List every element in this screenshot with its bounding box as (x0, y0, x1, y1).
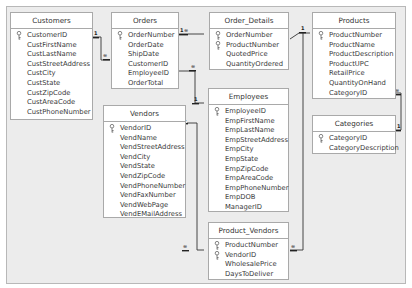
field-name: CustAreaCode (27, 98, 75, 106)
field-row[interactable]: OrderNumber (112, 31, 178, 41)
field-row[interactable]: ShipDate (112, 50, 178, 60)
field-row[interactable]: VendEMailAddress (104, 210, 185, 220)
table-order-details[interactable]: Order_Details OrderNumberProductNumberQu… (209, 12, 289, 70)
field-row[interactable]: ProductDescription (313, 50, 395, 60)
table-title[interactable]: Product_Vendors (209, 223, 288, 239)
table-categories[interactable]: Categories CategoryIDCategoryDescription (312, 115, 396, 154)
field-row[interactable]: CustLastName (11, 50, 92, 60)
field-row[interactable]: RetailPrice (313, 69, 395, 79)
field-row[interactable]: VendFaxNumber (104, 191, 185, 201)
field-name: ProductDescription (329, 50, 394, 58)
field-row[interactable]: ProductNumber (209, 241, 288, 251)
field-name: CustomerID (27, 31, 67, 39)
field-row[interactable]: CustState (11, 79, 92, 89)
card-many: ∞ (183, 243, 187, 249)
field-row[interactable]: CustAreaCode (11, 98, 92, 108)
rel-products-orderdetails[interactable] (290, 33, 310, 39)
field-row[interactable]: CustStreetAddress (11, 60, 92, 70)
table-title[interactable]: Products (313, 13, 395, 29)
field-row[interactable]: EmployeeID (209, 107, 288, 117)
field-row[interactable]: DaysToDeliver (209, 270, 288, 280)
primary-key-icon (214, 251, 220, 260)
field-row[interactable]: OrderNumber (210, 31, 288, 41)
field-name: CustZipCode (27, 89, 71, 97)
field-row[interactable]: ManagerID (209, 203, 288, 213)
field-row[interactable]: VendorID (209, 251, 288, 261)
field-row[interactable]: EmpLastName (209, 126, 288, 136)
field-row[interactable]: EmpZipCode (209, 165, 288, 175)
table-title[interactable]: Orders (112, 13, 178, 29)
field-name: CustLastName (27, 50, 76, 58)
field-row[interactable]: OrderDate (112, 41, 178, 51)
field-row[interactable]: CategoryID (313, 89, 395, 99)
field-row[interactable]: EmpFirstName (209, 117, 288, 127)
field-row[interactable]: EmployeeID (112, 69, 178, 79)
field-row[interactable]: QuantityOrdered (210, 60, 288, 70)
table-products[interactable]: Products ProductNumberProductNameProduct… (312, 12, 396, 99)
table-title[interactable]: Customers (11, 13, 92, 29)
table-title[interactable]: Order_Details (210, 13, 288, 29)
field-row[interactable]: EmpCity (209, 145, 288, 155)
field-row[interactable]: VendPhoneNumber (104, 182, 185, 192)
table-orders[interactable]: Orders OrderNumberOrderDateShipDateCusto… (111, 12, 179, 89)
field-row[interactable]: ProductNumber (313, 31, 395, 41)
rel-products-productvendors[interactable] (290, 33, 303, 250)
field-list: CustomerIDCustFirstNameCustLastNameCustS… (11, 29, 92, 120)
field-name: ManagerID (225, 203, 262, 211)
table-employees[interactable]: Employees EmployeeIDEmpFirstNameEmpLastN… (208, 88, 289, 212)
rel-employees-orders[interactable] (178, 71, 204, 103)
field-row[interactable]: ProductNumber (210, 41, 288, 51)
table-title[interactable]: Employees (209, 89, 288, 105)
field-row[interactable]: OrderTotal (112, 79, 178, 89)
field-row[interactable]: CategoryID (313, 134, 395, 144)
field-list: ProductNumberVendorIDWholesalePriceDaysT… (209, 239, 288, 282)
field-name: VendEMailAddress (120, 210, 182, 218)
card-one: 1 (94, 30, 98, 36)
table-vendors[interactable]: Vendors VendorIDVendNameVendStreetAddres… (103, 105, 186, 218)
field-row[interactable]: CustCity (11, 69, 92, 79)
field-row[interactable]: QuotedPrice (210, 50, 288, 60)
field-row[interactable]: VendZipCode (104, 172, 185, 182)
table-product-vendors[interactable]: Product_Vendors ProductNumberVendorIDWho… (208, 222, 289, 280)
field-name: EmployeeID (225, 107, 266, 115)
field-name: RetailPrice (329, 69, 365, 77)
field-row[interactable]: VendState (104, 162, 185, 172)
field-row[interactable]: CustomerID (112, 60, 178, 70)
rel-customers-orders[interactable] (93, 37, 110, 60)
table-title[interactable]: Vendors (104, 106, 185, 122)
field-name: VendName (120, 134, 157, 142)
field-row[interactable]: ProductName (313, 41, 395, 51)
field-name: CategoryID (329, 134, 367, 142)
field-list: CategoryIDCategoryDescription (313, 132, 395, 156)
field-name: QuantityOrdered (226, 60, 283, 68)
field-name: VendorID (120, 124, 151, 132)
primary-key-icon (318, 134, 324, 143)
field-row[interactable]: EmpState (209, 155, 288, 165)
field-row[interactable]: CustomerID (11, 31, 92, 41)
field-row[interactable]: CustFirstName (11, 41, 92, 51)
field-row[interactable]: VendStreetAddress (104, 143, 185, 153)
field-name: ProductUPC (329, 60, 369, 68)
field-name: VendCity (120, 153, 150, 161)
field-row[interactable]: VendCity (104, 153, 185, 163)
field-row[interactable]: CategoryDescription (313, 144, 395, 154)
field-name: CustFirstName (27, 41, 77, 49)
card-one: 1 (194, 96, 198, 102)
field-row[interactable]: EmpStreetAddress (209, 136, 288, 146)
field-row[interactable]: CustPhoneNumber (11, 108, 92, 118)
table-customers[interactable]: Customers CustomerIDCustFirstNameCustLas… (10, 12, 93, 120)
field-row[interactable]: EmpPhoneNumber (209, 184, 288, 194)
field-row[interactable]: VendName (104, 134, 185, 144)
field-name: CategoryDescription (329, 144, 399, 152)
field-row[interactable]: WholesalePrice (209, 260, 288, 270)
field-row[interactable]: CustZipCode (11, 89, 92, 99)
field-row[interactable]: EmpAreaCode (209, 174, 288, 184)
field-row[interactable]: ProductUPC (313, 60, 395, 70)
field-row[interactable]: QuantityOnHand (313, 79, 395, 89)
field-row[interactable]: EmpDOB (209, 193, 288, 203)
field-list: ProductNumberProductNameProductDescripti… (313, 29, 395, 101)
rel-vendors-productvendors[interactable] (187, 123, 204, 250)
field-row[interactable]: VendWebPage (104, 201, 185, 211)
table-title[interactable]: Categories (313, 116, 395, 132)
field-row[interactable]: VendorID (104, 124, 185, 134)
